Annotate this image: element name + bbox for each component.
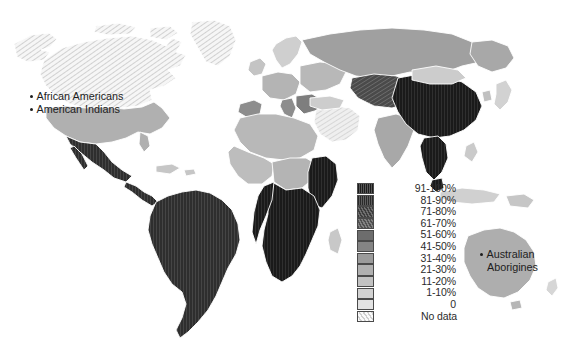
annotation-line: American Indians <box>30 103 124 116</box>
region-mongolia <box>412 66 466 84</box>
legend-row: 91-100% <box>357 183 457 195</box>
region-new-guinea <box>506 194 534 208</box>
region-south-america <box>148 190 240 338</box>
annotation-text: Aborigines <box>480 261 538 274</box>
bullet-icon <box>30 95 33 98</box>
region-tasmania <box>510 300 522 310</box>
annotation-text: Australian <box>487 248 535 260</box>
region-hispaniola <box>184 169 196 176</box>
region-turkey <box>310 96 344 110</box>
legend-row: No data <box>357 311 457 323</box>
region-siberia-east <box>470 40 514 72</box>
legend-label: 21-30% <box>374 264 457 276</box>
legend-swatch <box>357 311 374 322</box>
bullet-icon <box>30 108 33 111</box>
legend-label: No data <box>374 311 457 323</box>
world-map-svg <box>0 0 565 350</box>
region-baffin <box>150 26 178 40</box>
annotation-line: African Americans <box>30 90 124 103</box>
legend-swatch <box>357 264 374 275</box>
legend-swatch <box>357 218 374 229</box>
legend-swatch <box>357 253 374 264</box>
legend-swatch <box>357 241 374 252</box>
legend-label: 91-100% <box>374 183 457 195</box>
region-greenland <box>190 20 236 66</box>
legend-swatch <box>357 230 374 241</box>
legend-row: 21-30% <box>357 264 457 276</box>
legend-swatch <box>357 276 374 287</box>
region-new-zealand <box>546 278 558 296</box>
bullet-icon <box>480 253 483 256</box>
legend-label: 0 <box>374 299 457 311</box>
region-france-germany <box>262 72 300 100</box>
legend-label: 41-50% <box>374 241 457 253</box>
region-madagascar <box>328 228 342 254</box>
region-central-america <box>124 182 158 206</box>
legend-row: 1-10% <box>357 287 457 299</box>
legend-label: 1-10% <box>374 287 457 299</box>
annotation-line: Australian <box>480 248 538 261</box>
annotation-text: American Indians <box>37 103 120 115</box>
legend-swatch <box>357 195 374 206</box>
region-caribbean <box>156 164 180 174</box>
legend-swatch <box>357 183 374 194</box>
legend-row: 0 <box>357 299 457 311</box>
legend-swatch <box>357 299 374 310</box>
region-arctic-islands <box>94 23 136 35</box>
north-america-annotation: African Americans American Indians <box>30 90 124 115</box>
annotation-text: African Americans <box>37 90 124 102</box>
legend-row: 41-50% <box>357 241 457 253</box>
region-southeast-asia <box>420 136 448 180</box>
australia-annotation: Australian Aborigines <box>480 248 538 273</box>
legend-swatch <box>357 288 374 299</box>
region-philippines <box>464 142 478 162</box>
region-scandinavia <box>272 36 302 68</box>
region-florida <box>139 132 150 152</box>
legend-swatch <box>357 206 374 217</box>
region-korea <box>482 90 492 102</box>
world-map-figure: 91-100% 81-90% 71-80% 61-70% 51-60% 41-5… <box>0 0 565 350</box>
percentage-legend: 91-100% 81-90% 71-80% 61-70% 51-60% 41-5… <box>357 183 457 322</box>
region-japan <box>494 80 512 110</box>
region-british-isles <box>248 58 266 76</box>
region-middle-east <box>314 106 360 142</box>
